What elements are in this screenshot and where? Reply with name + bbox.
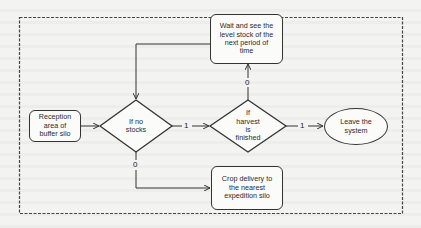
node-wait-line-4: time bbox=[220, 47, 274, 55]
node-crop-delivery: Crop delivery to the nearest expedition … bbox=[211, 166, 283, 210]
edge-label-harvest-no: 0 bbox=[245, 79, 249, 87]
node-crop-line-3: expedition silo bbox=[222, 192, 272, 200]
edge-label-no-stocks-yes: 1 bbox=[184, 122, 188, 130]
node-reception-area: Reception area of buffer silo bbox=[29, 110, 81, 142]
node-leave-system: Leave the system bbox=[324, 108, 388, 145]
node-leave-line-2: system bbox=[340, 127, 372, 135]
edge-label0-to-crop bbox=[136, 170, 210, 188]
node-wait-and-see: Wait and see the level stock of the next… bbox=[210, 14, 283, 64]
node-if-no-stocks-line-2: stocks bbox=[126, 126, 146, 134]
edge-wait-to-no-stocks bbox=[136, 44, 210, 99]
node-if-no-stocks-label: If no stocks bbox=[110, 112, 162, 140]
edge-label-harvest-yes: 1 bbox=[300, 122, 304, 130]
edge-label-no-stocks-no: 0 bbox=[133, 161, 137, 169]
node-if-harvest-line-4: finished bbox=[236, 134, 261, 142]
node-reception-line-3: buffer silo bbox=[39, 130, 71, 138]
flowchart-canvas: Reception area of buffer silo If no stoc… bbox=[0, 0, 421, 228]
node-if-harvest-label: If harvest is finished bbox=[222, 104, 274, 148]
